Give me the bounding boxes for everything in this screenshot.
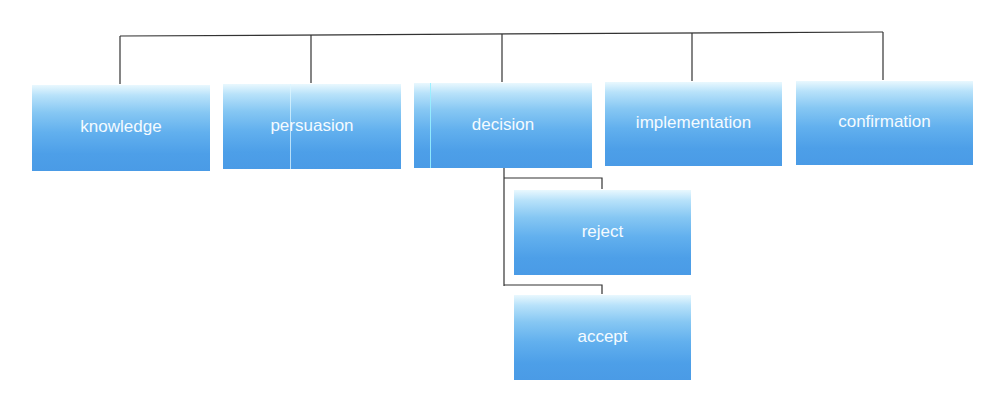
node-accept: accept [514, 295, 691, 380]
node-confirmation: confirmation [796, 81, 973, 165]
top-bus-line [120, 32, 883, 36]
node-knowledge: knowledge [32, 85, 210, 171]
node-label: knowledge [80, 117, 161, 137]
node-label: implementation [636, 113, 751, 133]
node-decision: decision [414, 83, 592, 168]
node-reject: reject [514, 190, 691, 275]
node-label: decision [472, 115, 534, 135]
branch-accept [504, 285, 602, 294]
node-implementation: implementation [605, 82, 782, 166]
seam-line [430, 83, 431, 168]
node-label: persuasion [270, 116, 353, 136]
node-label: accept [577, 327, 627, 347]
connector-lines [0, 0, 999, 398]
branch-reject [504, 178, 602, 189]
node-label: confirmation [838, 112, 931, 132]
node-label: reject [582, 222, 624, 242]
seam-line [290, 84, 291, 169]
node-persuasion: persuasion [223, 84, 401, 169]
